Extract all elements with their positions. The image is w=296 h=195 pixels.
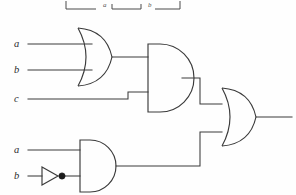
input-label-a-bottom: a: [14, 144, 19, 155]
cropped-label-b: b: [148, 1, 152, 9]
label-layer: a b a b c a b: [0, 0, 296, 195]
input-label-a-top: a: [14, 38, 19, 49]
logic-circuit-figure: a b a b c a b: [0, 0, 296, 195]
input-label-b-top: b: [14, 64, 19, 75]
input-label-c: c: [14, 93, 19, 104]
input-label-b-bottom: b: [14, 170, 19, 181]
cropped-label-a: a: [103, 1, 107, 9]
